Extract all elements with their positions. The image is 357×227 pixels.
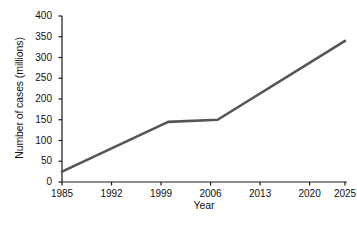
y-tick-label: 100 — [22, 135, 52, 146]
y-tick-label: 200 — [22, 93, 52, 104]
y-tick-label: 250 — [22, 72, 52, 83]
data-series-line — [62, 41, 345, 172]
y-tick-label: 150 — [22, 114, 52, 125]
x-tick-label: 2006 — [191, 188, 231, 199]
x-axis-title: Year — [62, 199, 346, 211]
figure: 050100150200250300350400 198519921999200… — [0, 0, 357, 227]
y-tick-label: 50 — [22, 155, 52, 166]
x-tick-label: 2013 — [240, 188, 280, 199]
x-tick-label: 1992 — [92, 188, 132, 199]
y-tick-label: 400 — [22, 10, 52, 21]
y-tick-label: 350 — [22, 31, 52, 42]
x-tick-label: 2020 — [290, 188, 330, 199]
x-tick-label: 1985 — [42, 188, 82, 199]
x-tick-label: 1999 — [141, 188, 181, 199]
x-tick-label: 2025 — [325, 188, 357, 199]
axis-lines — [62, 16, 347, 182]
y-axis-title: Number of cases (millions) — [13, 13, 25, 183]
y-tick-label: 300 — [22, 52, 52, 63]
y-tick-label: 0 — [22, 176, 52, 187]
